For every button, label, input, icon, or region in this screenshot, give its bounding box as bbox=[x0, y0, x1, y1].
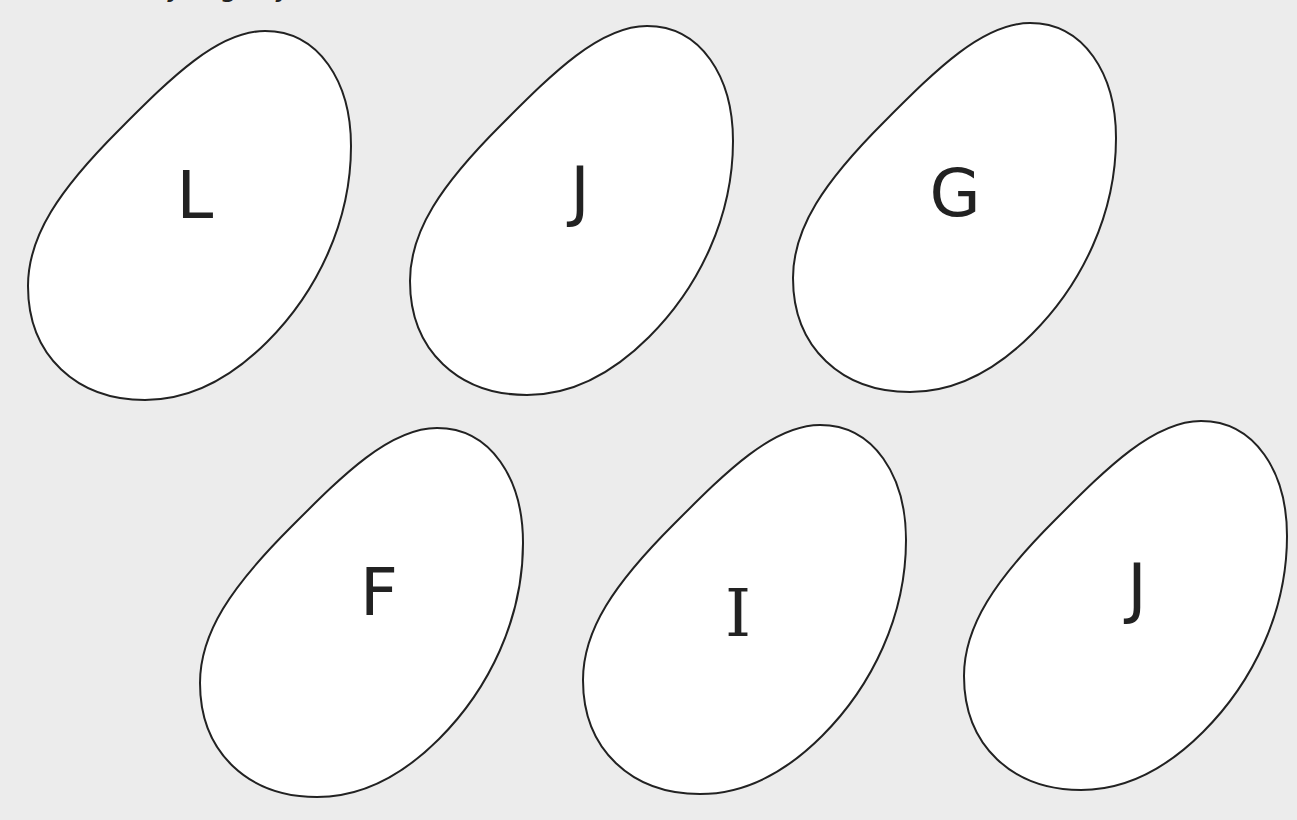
egg-letter: G bbox=[929, 161, 980, 227]
egg-letter: F bbox=[360, 560, 398, 626]
egg-5[interactable]: I bbox=[582, 424, 907, 796]
egg-letter: L bbox=[177, 163, 214, 229]
egg-2[interactable]: J bbox=[409, 25, 734, 397]
egg-6[interactable]: J bbox=[963, 420, 1288, 792]
egg-4[interactable]: F bbox=[199, 427, 524, 799]
egg-1[interactable]: L bbox=[27, 30, 352, 402]
egg-letter: J bbox=[570, 159, 589, 225]
egg-letter: J bbox=[1127, 556, 1146, 622]
egg-shape-icon bbox=[963, 420, 1288, 792]
cutoff-instruction-text: y g y bbox=[168, 0, 307, 3]
egg-3[interactable]: G bbox=[792, 22, 1117, 394]
egg-letter: I bbox=[725, 581, 751, 647]
